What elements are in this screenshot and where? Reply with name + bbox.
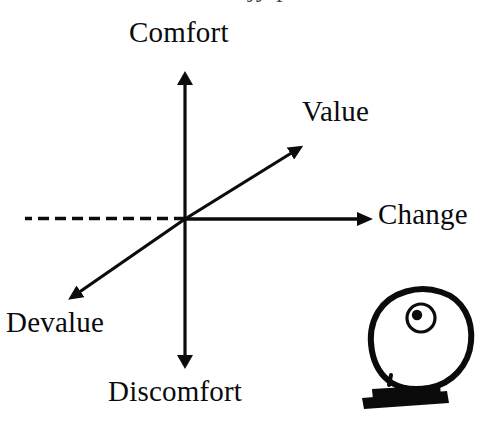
diagram-canvas: jy p	[0, 0, 493, 426]
axis-label-discomfort: Discomfort	[108, 377, 242, 406]
axis-label-value: Value	[302, 97, 369, 126]
ball-eye-pupil	[412, 310, 422, 320]
value-axis-arrow	[185, 152, 293, 219]
axis-label-change: Change	[378, 200, 468, 229]
ball-character-figure	[362, 289, 471, 409]
horizontal-axis	[25, 219, 360, 220]
axis-label-comfort: Comfort	[129, 18, 229, 47]
devalue-axis-arrow	[78, 219, 185, 293]
axis-label-devalue: Devalue	[6, 308, 104, 337]
ball-notch-mark	[389, 375, 391, 385]
